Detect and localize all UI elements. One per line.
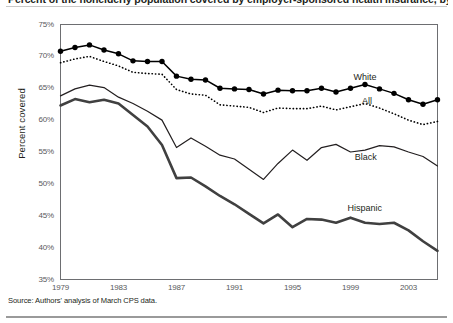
x-tick-label: 1999 <box>335 283 367 292</box>
y-tick-label: 70% <box>24 51 54 60</box>
x-tick-label: 1995 <box>277 283 309 292</box>
data-point-marker <box>275 87 280 92</box>
series-label-hispanic: Hispanic <box>348 203 383 213</box>
data-point-marker <box>377 86 382 91</box>
source-note: Source: Authors' analysis of March CPS d… <box>8 296 157 305</box>
data-point-marker <box>348 86 353 91</box>
y-tick-label: 40% <box>24 243 54 252</box>
figure-container: Percent of the nonelderly population cov… <box>0 0 453 323</box>
data-point-marker <box>116 51 121 56</box>
data-point-marker <box>101 47 106 52</box>
line-chart-plot <box>0 0 453 323</box>
data-point-marker <box>217 86 222 91</box>
series-label-all: All <box>362 96 372 106</box>
data-point-marker <box>420 101 425 106</box>
data-point-marker <box>261 91 266 96</box>
y-tick-label: 50% <box>24 179 54 188</box>
data-point-marker <box>391 91 396 96</box>
data-point-marker <box>290 88 295 93</box>
data-point-marker <box>435 97 440 102</box>
y-tick-label: 75% <box>24 20 54 29</box>
data-point-marker <box>203 77 208 82</box>
y-tick-label: 45% <box>24 211 54 220</box>
data-point-marker <box>130 58 135 63</box>
data-point-marker <box>87 42 92 47</box>
data-point-marker <box>406 97 411 102</box>
y-tick-label: 55% <box>24 147 54 156</box>
y-axis-tick-labels: 75%70%65%60%55%50%45%40%35% <box>22 0 54 300</box>
data-point-marker <box>232 86 237 91</box>
x-tick-label: 1979 <box>45 283 77 292</box>
x-tick-label: 1987 <box>161 283 193 292</box>
data-point-marker <box>188 77 193 82</box>
data-point-marker <box>58 49 63 54</box>
y-tick-label: 65% <box>24 83 54 92</box>
data-point-marker <box>362 82 367 87</box>
data-point-marker <box>145 59 150 64</box>
data-point-marker <box>246 87 251 92</box>
series-label-black: Black <box>355 152 377 162</box>
y-tick-label: 60% <box>24 115 54 124</box>
data-point-marker <box>159 59 164 64</box>
x-tick-label: 1991 <box>219 283 251 292</box>
figure-title: Percent of the nonelderly population cov… <box>8 0 448 7</box>
bottom-divider-rule <box>6 316 447 318</box>
data-point-marker <box>304 88 309 93</box>
data-point-marker <box>319 86 324 91</box>
data-point-marker <box>72 45 77 50</box>
x-tick-label: 2003 <box>393 283 425 292</box>
x-tick-label: 1983 <box>103 283 135 292</box>
data-point-marker <box>174 73 179 78</box>
series-label-white: White <box>353 72 376 82</box>
data-point-marker <box>333 89 338 94</box>
plot-frame <box>61 25 438 280</box>
